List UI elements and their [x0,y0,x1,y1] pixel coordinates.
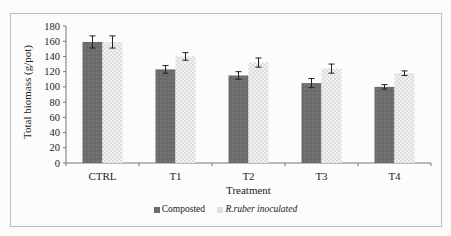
bar-inoculated [176,56,196,163]
x-tick-label: T4 [388,170,401,182]
legend-label: R.ruber inoculated [225,204,297,214]
bar-composted [229,75,249,163]
legend-item-inoculated: R.ruber inoculated [217,204,297,214]
bar-inoculated [103,42,123,163]
y-tick-label: 180 [44,21,60,32]
legend-swatch-composted [154,207,160,213]
legend: Composted R.ruber inoculated [0,204,451,214]
legend-item-composted: Composted [154,204,205,214]
bar-inoculated [395,73,415,163]
y-tick-label: 160 [44,36,60,47]
bar-chart: 020406080100120140160180CTRLT1T2T3T4 [0,0,451,236]
x-tick-label: CTRL [88,170,116,182]
bar-composted [156,69,176,163]
legend-label: Composted [162,204,205,214]
bar-composted [302,83,322,163]
y-axis-label: Total biomass (g/pot) [21,17,33,167]
x-tick-label: T3 [315,170,328,182]
y-tick-label: 120 [44,66,60,77]
bar-composted [375,87,395,163]
bar-inoculated [249,63,269,163]
y-tick-label: 20 [50,142,61,153]
legend-swatch-inoculated [217,207,223,213]
y-tick-label: 100 [44,81,60,92]
y-tick-label: 40 [50,127,61,138]
y-tick-label: 60 [50,112,61,123]
bar-inoculated [322,69,342,163]
y-tick-label: 0 [55,158,60,169]
y-tick-label: 140 [44,51,60,62]
x-tick-label: T2 [242,170,254,182]
y-tick-label: 80 [50,97,61,108]
x-axis-label: Treatment [66,184,431,196]
x-tick-label: T1 [169,170,181,182]
bar-composted [83,42,103,163]
